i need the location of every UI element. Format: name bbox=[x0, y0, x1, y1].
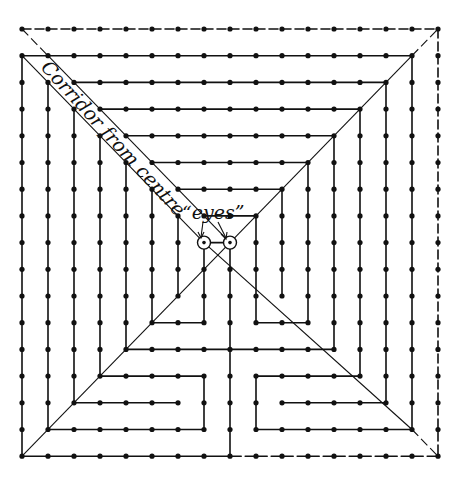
wall-dot bbox=[175, 53, 180, 58]
wall-dot bbox=[175, 400, 180, 405]
wall-dot bbox=[45, 267, 50, 272]
wall-dot bbox=[305, 267, 310, 272]
wall-dot bbox=[357, 320, 362, 325]
wall-dot bbox=[123, 107, 128, 112]
wall-dot bbox=[19, 454, 24, 459]
wall-dot bbox=[357, 107, 362, 112]
wall-dot bbox=[201, 320, 206, 325]
wall-dot bbox=[253, 267, 258, 272]
wall-dot bbox=[201, 267, 206, 272]
wall-dot bbox=[97, 454, 102, 459]
wall-dot bbox=[357, 133, 362, 138]
wall-dot bbox=[149, 454, 154, 459]
wall-dot bbox=[253, 160, 258, 165]
wall-dot bbox=[383, 26, 388, 31]
wall-dot bbox=[305, 240, 310, 245]
wall-dot bbox=[357, 53, 362, 58]
wall-dot bbox=[357, 400, 362, 405]
wall-dot bbox=[435, 347, 440, 352]
wall-dot bbox=[331, 347, 336, 352]
dashed-diagonal-line bbox=[412, 430, 438, 457]
wall-dot bbox=[357, 267, 362, 272]
wall-dot bbox=[201, 80, 206, 85]
wall-dot bbox=[409, 454, 414, 459]
wall-dot bbox=[175, 320, 180, 325]
wall-dot bbox=[435, 374, 440, 379]
wall-dot bbox=[71, 293, 76, 298]
wall-dot bbox=[123, 80, 128, 85]
wall-dot bbox=[19, 293, 24, 298]
wall-dot bbox=[19, 267, 24, 272]
wall-dot bbox=[305, 26, 310, 31]
wall-dot bbox=[123, 26, 128, 31]
wall-dot bbox=[71, 26, 76, 31]
wall-dot bbox=[435, 107, 440, 112]
wall-dot bbox=[279, 267, 284, 272]
wall-dot bbox=[45, 187, 50, 192]
wall-dot bbox=[97, 26, 102, 31]
wall-dot bbox=[149, 293, 154, 298]
wall-dot bbox=[253, 107, 258, 112]
wall-dot bbox=[331, 53, 336, 58]
wall-dot bbox=[149, 347, 154, 352]
wall-dot bbox=[435, 160, 440, 165]
wall-dot bbox=[357, 160, 362, 165]
wall-dot bbox=[123, 427, 128, 432]
wall-dot bbox=[357, 427, 362, 432]
wall-dot bbox=[253, 240, 258, 245]
wall-dot bbox=[279, 133, 284, 138]
wall-dot bbox=[435, 26, 440, 31]
wall-dot bbox=[175, 160, 180, 165]
wall-dot bbox=[279, 213, 284, 218]
wall-dot bbox=[45, 53, 50, 58]
wall-dot bbox=[71, 374, 76, 379]
wall-dot bbox=[175, 293, 180, 298]
wall-dot bbox=[45, 427, 50, 432]
wall-dot bbox=[409, 374, 414, 379]
eye-pupil bbox=[202, 241, 206, 245]
wall-dot bbox=[19, 107, 24, 112]
wall-dot bbox=[201, 53, 206, 58]
wall-dot bbox=[71, 133, 76, 138]
wall-dot bbox=[331, 80, 336, 85]
wall-dot bbox=[19, 133, 24, 138]
wall-dot bbox=[149, 374, 154, 379]
wall-dot bbox=[175, 347, 180, 352]
wall-dot bbox=[227, 267, 232, 272]
wall-dot bbox=[45, 133, 50, 138]
wall-dot bbox=[435, 427, 440, 432]
wall-dot bbox=[435, 80, 440, 85]
wall-dot bbox=[409, 160, 414, 165]
wall-dot bbox=[97, 160, 102, 165]
wall-dot bbox=[149, 427, 154, 432]
wall-dot bbox=[279, 53, 284, 58]
wall-dot bbox=[149, 213, 154, 218]
wall-dot bbox=[383, 213, 388, 218]
wall-dot bbox=[19, 427, 24, 432]
wall-dot bbox=[45, 320, 50, 325]
wall-dot bbox=[227, 454, 232, 459]
eye-pupil bbox=[228, 241, 232, 245]
wall-dot bbox=[227, 320, 232, 325]
wall-dot bbox=[331, 187, 336, 192]
wall-dot bbox=[331, 107, 336, 112]
corridor-label: Corridor from centre bbox=[37, 56, 190, 220]
wall-dot bbox=[45, 240, 50, 245]
wall-dot bbox=[383, 53, 388, 58]
wall-dot bbox=[383, 427, 388, 432]
wall-dot bbox=[45, 400, 50, 405]
wall-dot bbox=[279, 320, 284, 325]
wall-dot bbox=[123, 400, 128, 405]
wall-dot bbox=[201, 454, 206, 459]
wall-dot bbox=[123, 347, 128, 352]
wall-dot bbox=[383, 240, 388, 245]
wall-dot bbox=[123, 213, 128, 218]
wall-dot bbox=[409, 187, 414, 192]
wall-dot bbox=[357, 454, 362, 459]
wall-dot bbox=[279, 427, 284, 432]
wall-dot bbox=[409, 347, 414, 352]
wall-dot bbox=[97, 320, 102, 325]
wall-dot bbox=[45, 293, 50, 298]
wall-dot bbox=[227, 107, 232, 112]
wall-dot bbox=[331, 240, 336, 245]
